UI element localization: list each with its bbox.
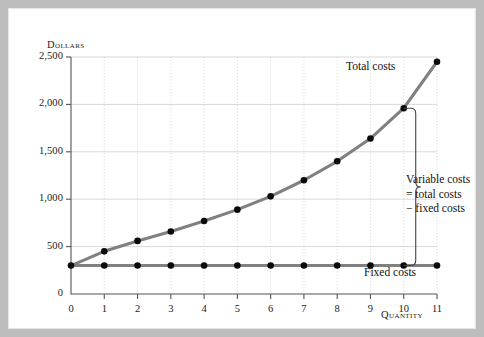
data-point — [234, 206, 241, 213]
x-axis-tick-label: 0 — [59, 303, 83, 314]
data-point — [434, 58, 441, 65]
variable-costs-line-2: = total costs — [406, 187, 484, 202]
y-axis-title: Dollars — [47, 39, 85, 50]
data-point — [68, 262, 75, 269]
data-point — [168, 228, 175, 235]
data-point — [201, 218, 208, 225]
data-point — [334, 262, 341, 269]
data-point — [234, 262, 241, 269]
x-axis-tick-label: 6 — [259, 303, 283, 314]
data-point — [301, 262, 308, 269]
data-point — [101, 262, 108, 269]
data-point — [168, 262, 175, 269]
variable-costs-label: Variable costs = total costs − fixed cos… — [406, 172, 484, 216]
y-axis-tick-label: 500 — [15, 240, 63, 251]
x-axis-tick-label: 3 — [159, 303, 183, 314]
x-axis-tick-label: 1 — [92, 303, 116, 314]
data-point — [434, 262, 441, 269]
cost-curve-chart — [71, 57, 437, 294]
data-point — [101, 248, 108, 255]
data-point — [134, 238, 141, 245]
data-point — [367, 135, 374, 142]
total-costs-label: Total costs — [346, 60, 395, 72]
y-axis-tick-label: 2,000 — [15, 97, 63, 108]
axis-lines — [71, 57, 437, 294]
x-axis-tick-label: 5 — [225, 303, 249, 314]
variable-costs-line-1: Variable costs — [406, 172, 484, 187]
data-point — [267, 193, 274, 200]
x-axis-tick-label: 2 — [126, 303, 150, 314]
plot-area: 05001,0001,5002,0002,50001234567891011 — [71, 57, 437, 294]
y-axis-tick-label: 1,000 — [15, 192, 63, 203]
data-point — [334, 158, 341, 165]
variable-costs-line-3: − fixed costs — [406, 201, 484, 216]
data-point — [267, 262, 274, 269]
x-axis-tick-label: 9 — [358, 303, 382, 314]
y-axis-tick-label: 1,500 — [15, 145, 63, 156]
figure-frame: Dollars Quantity 05001,0001,5002,0002,50… — [8, 8, 476, 329]
data-point — [201, 262, 208, 269]
x-axis-tick-label: 10 — [392, 303, 416, 314]
x-axis-tick-label: 8 — [325, 303, 349, 314]
x-axis-tick-label: 7 — [292, 303, 316, 314]
data-point — [301, 177, 308, 184]
y-axis-tick-label: 2,500 — [15, 50, 63, 61]
series-total-costs — [71, 62, 437, 266]
data-point — [134, 262, 141, 269]
x-axis-tick-label: 4 — [192, 303, 216, 314]
y-axis-tick-label: 0 — [15, 287, 63, 298]
fixed-costs-label: Fixed costs — [364, 266, 416, 278]
x-axis-tick-label: 11 — [425, 303, 449, 314]
